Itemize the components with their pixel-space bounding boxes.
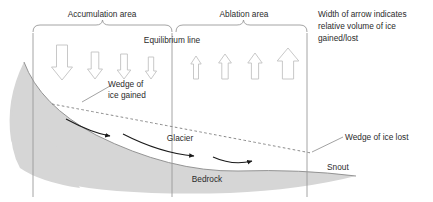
glacier-diagram: Accumulation area Ablation area Equilibr…	[0, 0, 433, 202]
label-equilibrium-line: Equilibrium line	[144, 35, 201, 45]
accumulation-arrow-group	[52, 45, 157, 80]
leader-wedge-gained	[82, 86, 110, 102]
label-snout: Snout	[327, 162, 349, 172]
ablation-arrow-2	[219, 54, 232, 79]
label-bedrock: Bedrock	[192, 174, 223, 184]
leader-wedge-lost	[312, 137, 343, 152]
label-note-line2: relative volume of ice	[318, 21, 396, 31]
label-ablation-area: Ablation area	[220, 9, 269, 19]
label-glacier: Glacier	[167, 133, 194, 143]
brace-ablation	[176, 20, 307, 32]
ablation-arrow-4	[277, 48, 299, 79]
label-accumulation-area: Accumulation area	[68, 9, 137, 19]
diagram-canvas: Accumulation area Ablation area Equilibr…	[0, 0, 433, 202]
label-note-line1: Width of arrow indicates	[318, 9, 407, 19]
ablation-arrow-3	[248, 53, 262, 79]
accumulation-arrow-3	[117, 54, 131, 79]
ablation-arrow-1	[191, 56, 201, 79]
accumulation-arrow-4	[145, 57, 156, 79]
brace-accumulation	[33, 20, 172, 32]
accumulation-arrow-2	[88, 52, 103, 79]
label-wedge-of-ice-lost: Wedge of ice lost	[345, 132, 409, 142]
label-wedge-of-ice-gained-line2: ice gained	[108, 90, 146, 100]
label-note-line3: gained/lost	[318, 33, 359, 43]
accumulation-arrow-1	[52, 45, 73, 80]
label-wedge-of-ice-gained-line1: Wedge of	[108, 79, 144, 89]
flow-arrow-3	[213, 157, 252, 163]
ablation-arrow-group	[191, 48, 299, 79]
